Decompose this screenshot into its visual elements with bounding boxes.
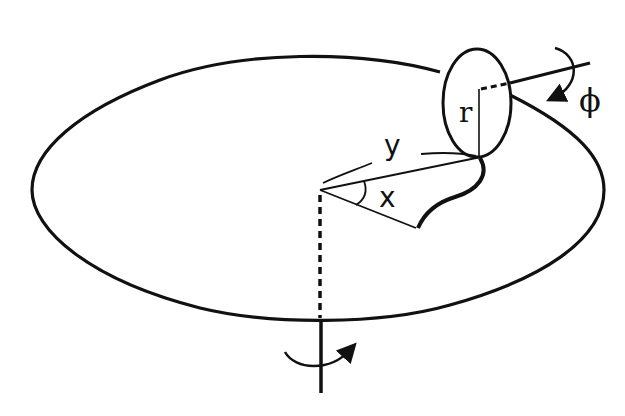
label-y: y (384, 132, 401, 160)
wheel-ellipse (443, 49, 511, 157)
wheel-axle-dashed (481, 83, 510, 89)
label-phi: ϕ (579, 84, 601, 116)
diagram-canvas: r ϕ y x (0, 0, 625, 416)
diagram-svg (0, 0, 625, 416)
label-x: x (379, 184, 396, 212)
turntable-ellipse (32, 56, 604, 320)
radial-line-x (320, 190, 416, 228)
label-r: r (459, 99, 472, 127)
angle-x-arc (356, 181, 366, 205)
rotation-arrow-axis (285, 350, 350, 366)
wheel-axle (510, 63, 590, 83)
